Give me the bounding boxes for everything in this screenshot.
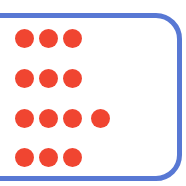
red-dot <box>39 69 58 88</box>
red-dot <box>15 29 34 48</box>
red-dot <box>39 109 58 128</box>
dot-row <box>0 109 186 129</box>
red-dot <box>63 148 82 167</box>
red-dot <box>63 29 82 48</box>
red-dot-grid <box>0 0 186 186</box>
red-dot <box>39 148 58 167</box>
red-dot <box>39 29 58 48</box>
red-dot <box>63 109 82 128</box>
screenshot-canvas <box>0 0 186 186</box>
red-dot <box>15 69 34 88</box>
dot-row <box>0 69 186 89</box>
dot-row <box>0 29 186 49</box>
red-dot <box>63 69 82 88</box>
red-dot <box>15 109 34 128</box>
dot-row <box>0 148 186 168</box>
red-dot <box>15 148 34 167</box>
red-dot <box>91 109 110 128</box>
